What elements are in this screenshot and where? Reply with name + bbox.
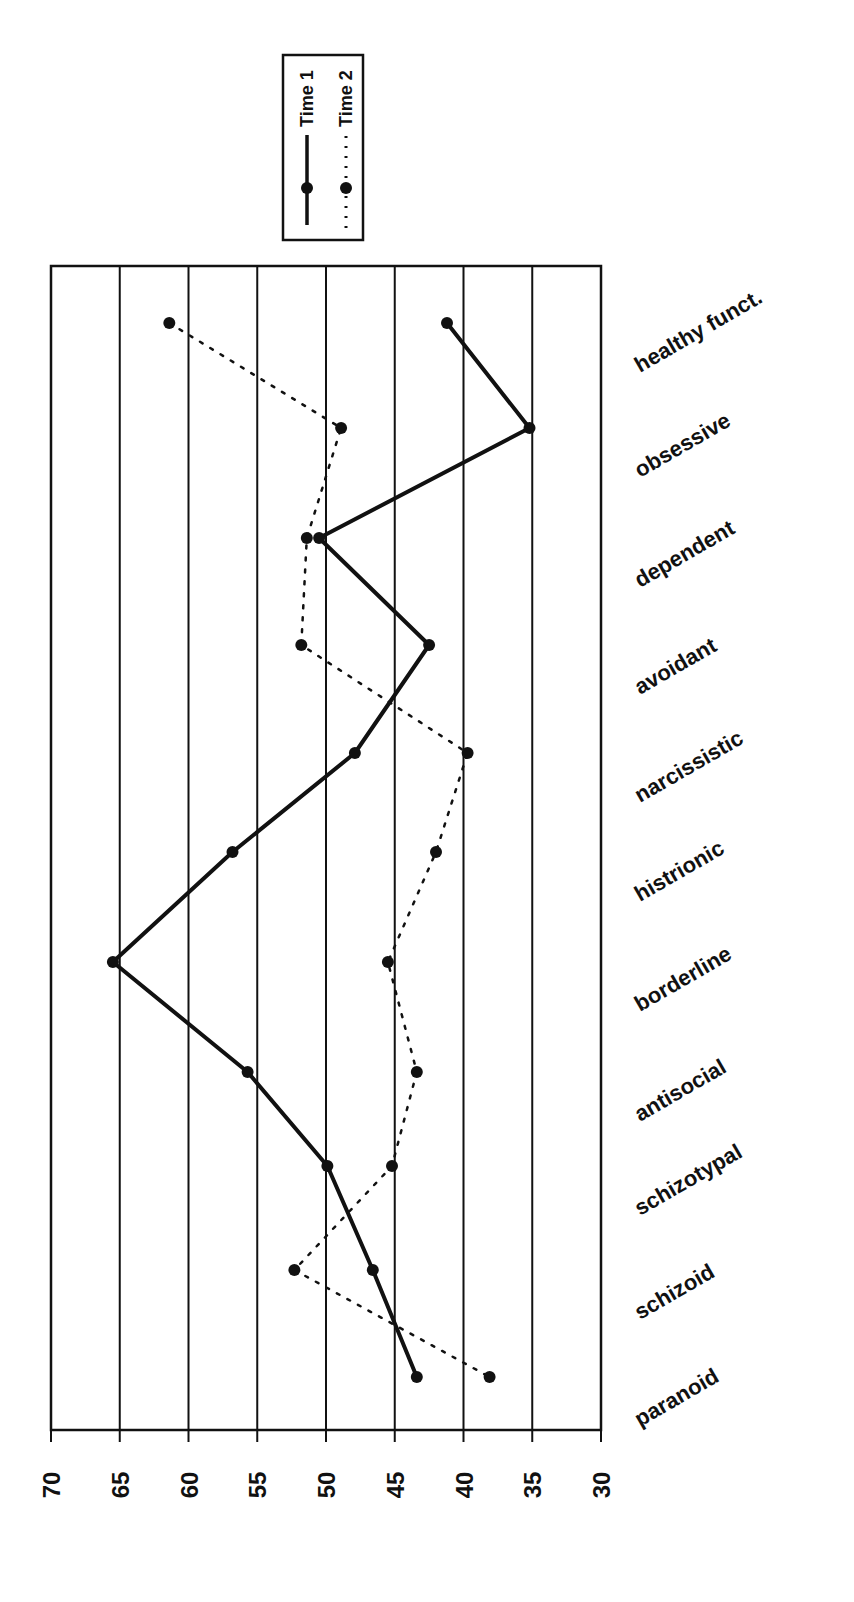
- data-point-marker: [524, 422, 536, 434]
- data-point-marker: [335, 422, 347, 434]
- data-point-marker: [295, 639, 307, 651]
- line-chart: 706560555045403530 healthy funct.obsessi…: [0, 0, 854, 1602]
- value-tick-label: 40: [451, 1472, 478, 1499]
- legend-label-time-1: Time 1: [297, 70, 317, 127]
- data-point-marker: [227, 846, 239, 858]
- category-label: borderline: [630, 941, 736, 1016]
- data-point-marker: [441, 317, 453, 329]
- category-label: schizotypal: [630, 1139, 746, 1221]
- value-tick-label: 65: [107, 1472, 134, 1499]
- value-tick-label: 30: [588, 1472, 615, 1499]
- data-point-marker: [349, 747, 361, 759]
- category-axis: healthy funct.obsessivedependentavoidant…: [630, 284, 766, 1431]
- legend-label-time-2: Time 2: [336, 70, 356, 127]
- data-point-marker: [242, 1066, 254, 1078]
- data-point-marker: [301, 532, 313, 544]
- value-tick-label: 55: [244, 1472, 271, 1499]
- category-label: obsessive: [630, 407, 735, 482]
- value-tick-label: 50: [313, 1472, 340, 1499]
- data-point-marker: [423, 639, 435, 651]
- value-tick-label: 60: [176, 1472, 203, 1499]
- value-tick-label: 45: [382, 1472, 409, 1499]
- value-tick-label: 35: [519, 1472, 546, 1499]
- data-point-marker: [367, 1264, 379, 1276]
- data-point-marker: [163, 317, 175, 329]
- data-point-marker: [462, 747, 474, 759]
- value-axis: 706560555045403530: [38, 1430, 615, 1498]
- data-point-marker: [430, 846, 442, 858]
- marker-dot-icon: [340, 182, 352, 194]
- category-label: healthy funct.: [630, 284, 766, 377]
- data-point-marker: [313, 532, 325, 544]
- category-label: dependent: [630, 515, 739, 593]
- category-label: avoidant: [630, 632, 721, 699]
- legend: Time 1 Time 2: [283, 55, 363, 240]
- category-label: schizoid: [630, 1259, 719, 1325]
- category-label: antisocial: [630, 1054, 730, 1126]
- data-point-marker: [288, 1264, 300, 1276]
- data-point-marker: [386, 1160, 398, 1172]
- data-point-marker: [411, 1371, 423, 1383]
- data-point-marker: [411, 1066, 423, 1078]
- data-point-marker: [484, 1371, 496, 1383]
- series-line-time-1: [113, 323, 530, 1377]
- gridlines: [120, 266, 533, 1430]
- data-point-marker: [382, 956, 394, 968]
- data-point-marker: [321, 1160, 333, 1172]
- marker-dot-icon: [301, 182, 313, 194]
- category-label: paranoid: [630, 1363, 723, 1431]
- value-tick-label: 70: [38, 1472, 65, 1499]
- data-point-marker: [107, 956, 119, 968]
- category-label: histrionic: [630, 835, 728, 906]
- series-lines: [107, 317, 536, 1383]
- category-label: narcissistic: [630, 725, 747, 807]
